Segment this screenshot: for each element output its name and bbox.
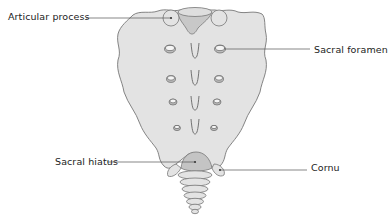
sacral-canal-rim xyxy=(178,8,212,17)
label-articular-process: Articular process xyxy=(8,12,90,22)
label-sacral-foramen: Sacral foramen xyxy=(314,45,388,55)
coccyx xyxy=(178,171,212,214)
articular-process-right xyxy=(211,10,227,26)
label-cornu: Cornu xyxy=(311,163,340,173)
label-sacral-hiatus: Sacral hiatus xyxy=(55,157,118,167)
